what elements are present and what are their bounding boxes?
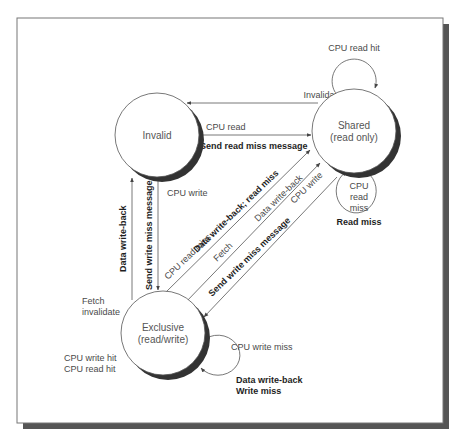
- label-cpu-read-miss-3: miss: [350, 203, 369, 213]
- state-exclusive-label-2: (read/write): [138, 334, 189, 345]
- label-cpu-read-hit-2: CPU read hit: [64, 364, 116, 374]
- state-shared-circle: [312, 89, 396, 173]
- label-cpu-write-hit: CPU write hit: [64, 353, 117, 363]
- state-shared-label-1: Shared: [338, 120, 370, 131]
- label-write-miss: Write miss: [236, 386, 281, 396]
- label-data-write-back-2: Data write-back: [236, 375, 304, 385]
- state-shared-label-2: (read only): [330, 132, 378, 143]
- label-read-miss: Read miss: [336, 217, 381, 227]
- label-cpu-write-invalid: CPU write: [167, 188, 208, 198]
- label-data-write-back-vertical: Data write-back: [118, 204, 128, 272]
- state-invalid-label: Invalid: [143, 130, 172, 141]
- label-fetch: Fetch: [82, 296, 105, 306]
- label-cpu-read-miss-1: CPU: [349, 181, 368, 191]
- label-send-write-miss-vertical: Send write miss message: [144, 180, 154, 290]
- label-cpu-read-miss-2: read: [350, 192, 368, 202]
- label-invalidate-2: invalidate: [82, 307, 120, 317]
- state-exclusive-label-1: Exclusive: [142, 322, 185, 333]
- state-exclusive-circle: [121, 291, 205, 375]
- label-cpu-read: CPU read: [206, 122, 246, 132]
- label-cpu-write-miss: CPU write miss: [231, 342, 293, 352]
- label-send-read-miss: Send read miss message: [200, 141, 308, 151]
- state-diagram: Invalidate CPU read Send read miss messa…: [0, 0, 462, 442]
- label-cpu-read-hit: CPU read hit: [328, 43, 380, 53]
